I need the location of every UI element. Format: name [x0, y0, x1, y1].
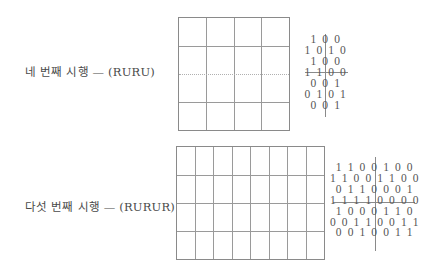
grid-line — [179, 46, 289, 47]
grid-line — [179, 74, 289, 75]
pattern-row: 0 0 1 — [311, 100, 342, 111]
trial-5-grid — [176, 146, 325, 260]
trial-4-label: 네 번째 시행 — (RURU) — [25, 65, 155, 79]
grid-line — [177, 175, 324, 176]
trial-5-label: 다섯 번째 시행 — (RURUR) — [25, 200, 175, 214]
grid-line — [179, 102, 289, 103]
grid-line — [177, 231, 324, 232]
pattern-row: 0 0 1 0 0 1 1 — [336, 227, 414, 238]
trial-4-grid — [178, 17, 290, 131]
grid-line — [177, 203, 324, 204]
